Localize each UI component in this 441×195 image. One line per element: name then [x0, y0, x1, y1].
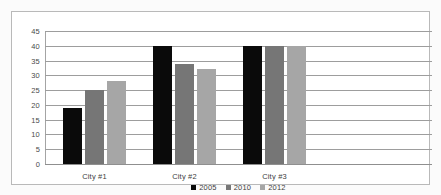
y-axis-tick-label: 35: [31, 56, 40, 65]
x-axis-category-label: City #2: [172, 172, 197, 181]
bar[interactable]: [153, 46, 172, 164]
y-axis-tick-label: 10: [31, 130, 40, 139]
bar[interactable]: [85, 90, 104, 164]
legend-label: 2005: [199, 183, 217, 192]
chart-legend: 200520102012: [45, 183, 432, 192]
chart-frame: 051015202530354045 City #1City #2City #3…: [11, 11, 430, 185]
bar-group: City #2: [153, 31, 216, 164]
bar[interactable]: [265, 46, 284, 164]
bar-group: City #1: [63, 31, 126, 164]
legend-label: 2012: [268, 183, 286, 192]
y-axis-tick-label: 25: [31, 86, 40, 95]
y-axis-tick-label: 20: [31, 100, 40, 109]
y-axis-tick-label: 45: [31, 27, 40, 36]
y-axis-tick-label: 0: [36, 160, 40, 169]
bar[interactable]: [243, 46, 262, 164]
plot-area: 051015202530354045 City #1City #2City #3…: [45, 31, 432, 164]
bar[interactable]: [287, 46, 306, 164]
y-axis-tick-label: 5: [36, 145, 40, 154]
gridline: [45, 164, 432, 165]
x-axis-category-label: City #1: [82, 172, 107, 181]
bar-group: City #3: [243, 31, 306, 164]
legend-swatch-icon: [191, 185, 196, 190]
y-axis-tick-label: 15: [31, 115, 40, 124]
legend-label: 2010: [234, 183, 252, 192]
legend-swatch-icon: [226, 185, 231, 190]
bar[interactable]: [63, 108, 82, 164]
bar[interactable]: [197, 69, 216, 164]
y-axis-tick-label: 30: [31, 71, 40, 80]
legend-swatch-icon: [260, 185, 265, 190]
y-axis-tick-label: 40: [31, 41, 40, 50]
x-axis-category-label: City #3: [262, 172, 287, 181]
legend-item[interactable]: 2005: [191, 183, 217, 192]
bar[interactable]: [175, 64, 194, 164]
legend-item[interactable]: 2012: [260, 183, 286, 192]
bar[interactable]: [107, 81, 126, 164]
legend-item[interactable]: 2010: [226, 183, 252, 192]
bar-groups: City #1City #2City #3: [45, 31, 432, 164]
